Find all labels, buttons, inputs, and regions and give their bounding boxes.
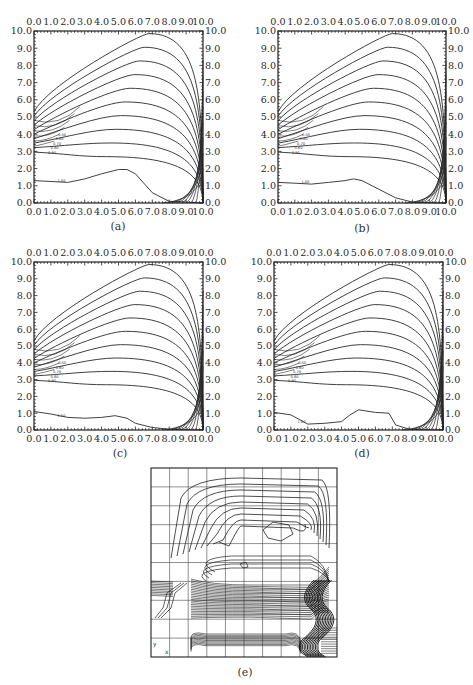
svg-text:0.80: 0.80 bbox=[294, 146, 303, 150]
svg-text:2.0: 2.0 bbox=[448, 163, 463, 174]
svg-text:7.0: 7.0 bbox=[145, 247, 160, 258]
svg-text:9.0: 9.0 bbox=[261, 43, 276, 54]
svg-text:8.0: 8.0 bbox=[162, 433, 177, 444]
svg-text:10.0: 10.0 bbox=[448, 25, 469, 36]
svg-text:1.0: 1.0 bbox=[448, 180, 463, 191]
contour-lines: 1.000.900.800.700.600.50 bbox=[274, 265, 443, 430]
svg-text:1.0: 1.0 bbox=[287, 206, 302, 217]
svg-text:6.0: 6.0 bbox=[205, 324, 220, 335]
svg-text:0.60: 0.60 bbox=[56, 366, 65, 370]
contour-lines: 1.000.900.800.700.600.50 bbox=[278, 34, 446, 203]
svg-text:8.0: 8.0 bbox=[205, 60, 220, 71]
svg-text:6.0: 6.0 bbox=[371, 16, 386, 27]
svg-text:4.0: 4.0 bbox=[205, 129, 220, 140]
svg-text:5.0: 5.0 bbox=[17, 340, 32, 351]
svg-text:9.0: 9.0 bbox=[17, 273, 32, 284]
svg-text:0.80: 0.80 bbox=[291, 375, 300, 379]
svg-text:4.0: 4.0 bbox=[448, 129, 463, 140]
svg-text:0.80: 0.80 bbox=[51, 375, 60, 379]
svg-text:0.0: 0.0 bbox=[257, 424, 272, 435]
panel-caption: (c) bbox=[113, 447, 128, 460]
svg-text:1.0: 1.0 bbox=[43, 433, 58, 444]
svg-text:3.0: 3.0 bbox=[321, 206, 336, 217]
svg-text:0.60: 0.60 bbox=[299, 137, 308, 141]
svg-text:0.0: 0.0 bbox=[448, 197, 463, 208]
svg-text:10.0: 10.0 bbox=[445, 256, 466, 267]
x-axis-top-ticks: 0.01.02.03.04.05.06.07.08.09.010.0 bbox=[26, 16, 213, 35]
svg-text:1.0: 1.0 bbox=[261, 180, 276, 191]
panel-d: 0.01.02.03.04.05.06.07.08.09.010.0 0.01.… bbox=[240, 232, 473, 472]
svg-text:0.60: 0.60 bbox=[296, 366, 305, 370]
svg-text:8.0: 8.0 bbox=[405, 16, 420, 27]
svg-text:4.0: 4.0 bbox=[17, 129, 32, 140]
svg-text:3.0: 3.0 bbox=[448, 146, 463, 157]
svg-text:4.0: 4.0 bbox=[94, 16, 109, 27]
contour-lines: 1.000.900.800.700.600.50 bbox=[34, 34, 203, 203]
svg-text:2.0: 2.0 bbox=[60, 16, 75, 27]
svg-text:2.0: 2.0 bbox=[60, 247, 75, 258]
svg-text:3.0: 3.0 bbox=[77, 206, 92, 217]
svg-text:0.0: 0.0 bbox=[261, 197, 276, 208]
svg-text:7.0: 7.0 bbox=[205, 307, 220, 318]
svg-text:3.0: 3.0 bbox=[261, 146, 276, 157]
svg-text:10.0: 10.0 bbox=[11, 256, 32, 267]
svg-text:3.0: 3.0 bbox=[257, 374, 272, 385]
svg-text:0.0: 0.0 bbox=[205, 197, 220, 208]
svg-text:7.0: 7.0 bbox=[385, 247, 400, 258]
svg-text:2.0: 2.0 bbox=[205, 391, 220, 402]
svg-text:5.0: 5.0 bbox=[445, 340, 460, 351]
contour-plot-d: 0.01.02.03.04.05.06.07.08.09.010.0 0.01.… bbox=[240, 232, 473, 472]
x-axis-top-ticks: 0.01.02.03.04.05.06.07.08.09.010.0 bbox=[266, 247, 453, 266]
svg-text:0.50: 0.50 bbox=[302, 133, 311, 137]
svg-text:4.0: 4.0 bbox=[334, 433, 349, 444]
svg-text:3.0: 3.0 bbox=[445, 374, 460, 385]
mesh-contour-plot-e: x y (e) bbox=[140, 460, 350, 685]
svg-text:0.50: 0.50 bbox=[298, 361, 307, 365]
svg-text:4.0: 4.0 bbox=[94, 433, 109, 444]
svg-text:0.60: 0.60 bbox=[56, 137, 65, 141]
svg-text:5.0: 5.0 bbox=[205, 340, 220, 351]
svg-text:5.0: 5.0 bbox=[111, 16, 126, 27]
svg-text:0.70: 0.70 bbox=[53, 370, 62, 374]
svg-text:5.0: 5.0 bbox=[111, 206, 126, 217]
svg-text:8.0: 8.0 bbox=[448, 60, 463, 71]
svg-text:7.0: 7.0 bbox=[205, 77, 220, 88]
svg-text:3.0: 3.0 bbox=[77, 433, 92, 444]
svg-text:0.0: 0.0 bbox=[445, 424, 460, 435]
x-axis-bottom-ticks: 0.01.02.03.04.05.06.07.08.09.010.0 bbox=[26, 427, 213, 445]
svg-text:10.0: 10.0 bbox=[255, 25, 276, 36]
svg-text:5.0: 5.0 bbox=[354, 16, 369, 27]
svg-text:2.0: 2.0 bbox=[17, 391, 32, 402]
svg-text:0.50: 0.50 bbox=[58, 133, 67, 137]
svg-text:4.0: 4.0 bbox=[261, 129, 276, 140]
panel-caption: (e) bbox=[237, 666, 252, 679]
svg-text:7.0: 7.0 bbox=[145, 433, 160, 444]
svg-text:5.0: 5.0 bbox=[205, 111, 220, 122]
svg-text:6.0: 6.0 bbox=[17, 324, 32, 335]
svg-text:0.70: 0.70 bbox=[53, 142, 62, 146]
svg-text:8.0: 8.0 bbox=[162, 16, 177, 27]
svg-text:0.70: 0.70 bbox=[297, 142, 306, 146]
svg-text:2.0: 2.0 bbox=[304, 16, 319, 27]
svg-text:6.0: 6.0 bbox=[205, 94, 220, 105]
svg-text:3.0: 3.0 bbox=[317, 247, 332, 258]
svg-text:0.90: 0.90 bbox=[48, 151, 57, 155]
svg-text:6.0: 6.0 bbox=[371, 206, 386, 217]
svg-text:6.0: 6.0 bbox=[128, 433, 143, 444]
svg-text:8.0: 8.0 bbox=[257, 290, 272, 301]
svg-text:7.0: 7.0 bbox=[388, 206, 403, 217]
svg-text:7.0: 7.0 bbox=[385, 433, 400, 444]
svg-text:3.0: 3.0 bbox=[321, 16, 336, 27]
svg-text:1.0: 1.0 bbox=[283, 247, 298, 258]
svg-text:1.0: 1.0 bbox=[17, 408, 32, 419]
svg-text:8.0: 8.0 bbox=[17, 290, 32, 301]
svg-text:5.0: 5.0 bbox=[261, 111, 276, 122]
svg-text:4.0: 4.0 bbox=[17, 357, 32, 368]
svg-text:1.0: 1.0 bbox=[283, 433, 298, 444]
svg-text:1.0: 1.0 bbox=[287, 16, 302, 27]
svg-text:4.0: 4.0 bbox=[338, 16, 353, 27]
svg-text:0.0: 0.0 bbox=[205, 424, 220, 435]
svg-text:0.90: 0.90 bbox=[48, 379, 57, 383]
panel-caption: (d) bbox=[354, 447, 370, 460]
svg-text:0.0: 0.0 bbox=[17, 197, 32, 208]
